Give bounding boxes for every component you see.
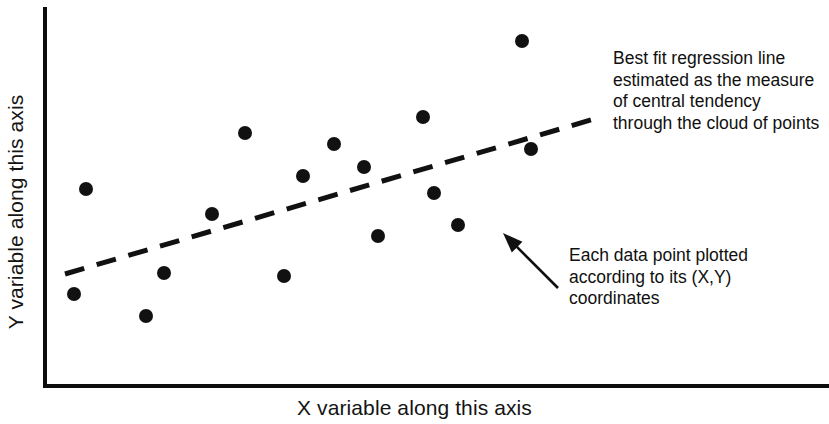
data-point (371, 229, 385, 243)
annotation-data-point: Each data point plotted according to its… (569, 245, 819, 310)
data-point (357, 160, 371, 174)
data-point (427, 186, 441, 200)
data-point (79, 182, 93, 196)
data-point (416, 110, 430, 124)
data-point (327, 137, 341, 151)
data-point (451, 218, 465, 232)
scatter-plot-figure: Best fit regression line estimated as th… (0, 0, 829, 424)
data-point (277, 269, 291, 283)
data-point (296, 169, 310, 183)
data-point (205, 207, 219, 221)
data-point (157, 266, 171, 280)
data-point (515, 34, 529, 48)
x-axis-title: X variable along this axis (0, 396, 829, 420)
data-point (524, 142, 538, 156)
data-point-callout-arrow (503, 233, 558, 288)
data-point (238, 126, 252, 140)
annotation-regression-line: Best fit regression line estimated as th… (613, 48, 823, 134)
data-point (139, 309, 153, 323)
data-point (67, 287, 81, 301)
callout-arrow-shaft (514, 244, 558, 288)
data-points-group (67, 34, 538, 323)
y-axis-title: Y variable along this axis (0, 0, 32, 424)
